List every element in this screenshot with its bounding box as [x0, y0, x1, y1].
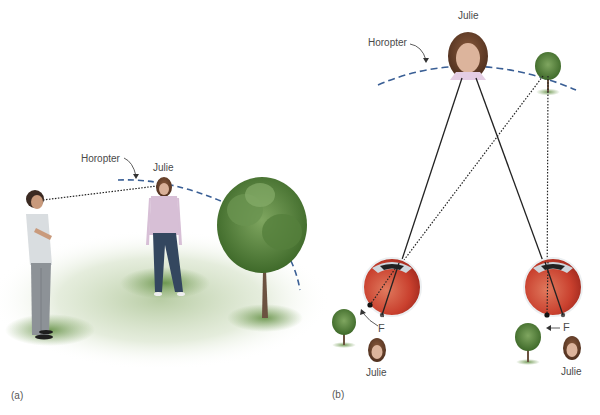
horopter-label-a: Horopter [81, 153, 120, 164]
horopter-label-b: Horopter [368, 37, 407, 48]
panel-a-scene [0, 158, 330, 370]
panel-b-scene [332, 32, 582, 365]
julie-label-b-top: Julie [458, 10, 479, 21]
right-eye [524, 258, 582, 331]
left-eye [360, 258, 421, 326]
horopter-figure: Horopter Julie (a) Julie Horopter F F Ju… [0, 0, 600, 415]
fovea-label-right: F [563, 321, 570, 333]
fovea-label-left: F [378, 322, 385, 334]
right-retinal-images [515, 323, 581, 365]
sight-line-a [43, 186, 157, 200]
panel-a-label: (a) [11, 390, 23, 401]
julie-head-b [448, 32, 488, 80]
julie-image-label-right: Julie [561, 366, 582, 377]
julie-image-label-left: Julie [366, 367, 387, 378]
panel-b-label: (b) [332, 389, 344, 400]
julie-label-a: Julie [153, 162, 174, 173]
figure-illustration [0, 0, 600, 415]
left-retinal-images [332, 309, 386, 362]
